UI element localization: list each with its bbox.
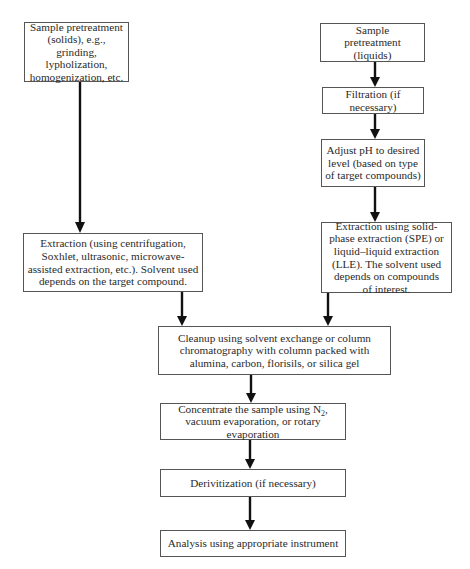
node-text: Extraction using solid-phase extraction …: [325, 220, 448, 296]
node-derivitization: Derivitization (if necessary): [160, 469, 346, 497]
node-text: Adjust pH to desired level (based on typ…: [325, 144, 421, 182]
node-cleanup: Cleanup using solvent exchange or column…: [158, 326, 391, 375]
node-text: Sample pretreatment (liquids): [324, 24, 421, 62]
node-text-part: Concentrate the sample using N: [178, 403, 321, 415]
node-text: Analysis using appropriate instrument: [168, 537, 339, 550]
node-text: Sample pretreatment (solids), e.g., grin…: [28, 21, 125, 84]
node-text: Concentrate the sample using N2, vacuum …: [164, 403, 342, 441]
node-extraction-solids: Extraction (using centrifugation, Soxhle…: [23, 233, 203, 292]
node-text: Derivitization (if necessary): [190, 477, 316, 490]
node-extraction-liquids: Extraction using solid-phase extraction …: [321, 222, 452, 293]
node-concentrate: Concentrate the sample using N2, vacuum …: [160, 403, 346, 440]
node-adjust-ph: Adjust pH to desired level (based on typ…: [321, 139, 425, 187]
node-filtration: Filtration (if necessary): [322, 87, 424, 114]
node-text: Filtration (if necessary): [326, 88, 420, 113]
node-text: Cleanup using solvent exchange or column…: [162, 332, 387, 370]
node-pretreatment-solids: Sample pretreatment (solids), e.g., grin…: [24, 22, 129, 82]
node-pretreatment-liquids: Sample pretreatment (liquids): [320, 23, 425, 62]
node-text: Extraction (using centrifugation, Soxhle…: [27, 237, 199, 287]
node-analysis: Analysis using appropriate instrument: [160, 530, 346, 557]
